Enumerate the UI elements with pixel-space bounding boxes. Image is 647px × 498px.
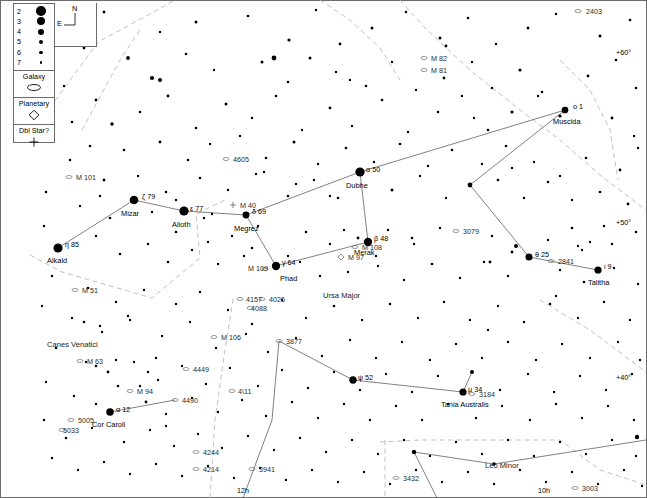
field-star (43, 419, 45, 421)
field-star (281, 369, 283, 371)
field-star (581, 249, 583, 251)
field-star (95, 99, 98, 102)
field-star (101, 331, 103, 333)
field-star (263, 171, 265, 173)
star-designation-label: ψ 52 (358, 374, 373, 381)
field-star (445, 45, 448, 48)
field-star (523, 197, 525, 199)
field-star (635, 231, 638, 234)
field-star (473, 117, 475, 119)
field-star (577, 245, 579, 247)
field-star (533, 161, 535, 163)
field-star (417, 317, 419, 319)
star-dot-icon (40, 61, 42, 63)
named-star-dot (106, 408, 114, 416)
constellation-label: Canes Venatici (47, 341, 98, 349)
field-star (317, 163, 319, 165)
deep-sky-label: 4\11 (238, 388, 251, 395)
field-star (510, 110, 513, 113)
deep-sky-label: 4490 (182, 397, 198, 404)
field-star (211, 213, 213, 215)
field-star (377, 265, 379, 267)
field-star (439, 227, 441, 229)
field-star (110, 122, 113, 125)
field-star (161, 335, 163, 337)
field-star (373, 161, 375, 163)
field-star (315, 9, 317, 11)
field-star (349, 339, 351, 341)
field-star (412, 450, 416, 454)
field-star (247, 15, 250, 18)
named-star-dot (594, 266, 601, 273)
field-star (333, 371, 335, 373)
field-star (317, 417, 319, 419)
plus-icon (14, 137, 54, 147)
field-star (185, 53, 188, 56)
field-star (481, 357, 483, 359)
field-star (599, 35, 602, 38)
deep-sky-label: 3941 (259, 466, 275, 473)
coordinate-label: 12h (237, 487, 249, 494)
field-star (155, 357, 157, 359)
field-star (285, 479, 287, 481)
field-star (587, 75, 590, 78)
star-designation-label: θ 25 (535, 251, 549, 258)
star-designation-label: γ 64 (282, 259, 296, 266)
planetary-label: Planetary (14, 100, 54, 108)
field-star (605, 389, 607, 391)
field-star (305, 317, 307, 319)
star-name-label: Cor Caroli (92, 421, 125, 428)
compass-icon (55, 3, 97, 47)
field-star (507, 275, 509, 277)
field-star (481, 163, 483, 165)
field-star (629, 319, 631, 321)
field-star (629, 19, 632, 22)
field-star (511, 167, 513, 169)
field-star (437, 375, 439, 377)
deep-sky-label: 5033 (63, 427, 79, 434)
field-star (41, 305, 43, 307)
star-designation-label: ι 9 (604, 263, 612, 270)
magnitude-value: 4 (17, 28, 28, 35)
field-star (371, 27, 374, 30)
field-star (115, 301, 117, 303)
deep-sky-label: 3432 (403, 475, 419, 482)
field-star (325, 451, 327, 453)
magnitude-row: 7 (14, 57, 54, 67)
field-star (239, 135, 241, 137)
field-star (470, 370, 474, 374)
field-star (231, 235, 233, 237)
field-star (501, 405, 503, 407)
field-star (375, 357, 377, 359)
constellation-label: Leo Minor (485, 462, 519, 470)
field-star (129, 319, 131, 321)
named-star-dot (355, 167, 364, 176)
field-star (187, 159, 190, 162)
field-star (607, 405, 609, 407)
field-star (603, 301, 605, 303)
field-star (181, 475, 183, 477)
field-star (431, 263, 434, 266)
field-star (523, 321, 525, 323)
field-star (45, 191, 48, 194)
field-star (381, 99, 384, 102)
field-star (579, 375, 581, 377)
field-star (79, 205, 81, 207)
deep-sky-label: 3877 (286, 338, 302, 345)
field-star (287, 255, 289, 257)
field-star (149, 429, 151, 431)
field-star (287, 81, 290, 84)
field-star (631, 373, 633, 375)
field-star (51, 457, 53, 459)
field-star (295, 183, 297, 185)
star-designation-label: o 1 (573, 103, 583, 110)
field-star (619, 169, 622, 172)
field-star (251, 247, 254, 250)
field-star (555, 295, 557, 297)
deep-sky-label: M 94 (137, 388, 153, 395)
field-star (73, 395, 75, 397)
star-dot-icon (36, 6, 46, 16)
greek-star-dot (525, 253, 532, 260)
deep-sky-label: M 81 (431, 67, 447, 74)
star-chart: o 1Muscidaα 50Dubheβ 48Merakγ 64Phadδ 69… (0, 0, 647, 498)
